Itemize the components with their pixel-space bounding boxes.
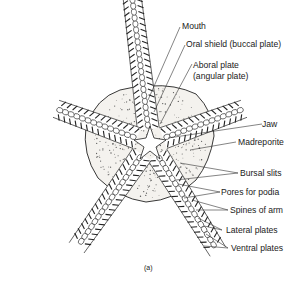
disc-granule bbox=[119, 145, 120, 146]
ventral-plate bbox=[139, 74, 145, 81]
disc-granule bbox=[103, 166, 104, 167]
ventral-plate bbox=[134, 32, 140, 39]
ventral-plate bbox=[133, 26, 139, 33]
disc-granule bbox=[97, 156, 98, 157]
disc-granule bbox=[189, 170, 190, 171]
disc-granule bbox=[184, 164, 185, 165]
disc-granule bbox=[178, 160, 179, 161]
disc-granule bbox=[182, 147, 183, 148]
disc-granule bbox=[120, 145, 121, 146]
disc-granule bbox=[154, 188, 155, 189]
disc-granule bbox=[189, 142, 190, 143]
disc-granule bbox=[186, 144, 187, 145]
disc-granule bbox=[198, 139, 199, 140]
disc-granule bbox=[191, 115, 192, 116]
label-lateral-plates: Lateral plates bbox=[226, 225, 278, 235]
arm-spine bbox=[143, 160, 149, 161]
disc-granule bbox=[158, 97, 159, 98]
disc-granule bbox=[154, 173, 155, 174]
disc-granule bbox=[155, 174, 156, 175]
disc-granule bbox=[100, 141, 101, 142]
disc-granule bbox=[102, 148, 103, 149]
disc-granule bbox=[116, 147, 117, 148]
disc-granule bbox=[132, 102, 133, 103]
arm-spine bbox=[126, 185, 132, 186]
disc-granule bbox=[114, 154, 115, 155]
disc-granule bbox=[200, 150, 201, 151]
disc-granule bbox=[205, 150, 206, 151]
label-jaw: Jaw bbox=[262, 119, 278, 129]
ventral-plate bbox=[130, 3, 136, 10]
brittle-star-diagram: Mouth Oral shield (buccal plate) Aboral … bbox=[0, 0, 306, 286]
disc-granule bbox=[178, 146, 179, 147]
disc-granule bbox=[112, 143, 113, 144]
disc-granule bbox=[176, 159, 177, 160]
disc-granule bbox=[155, 135, 156, 136]
arm-spine bbox=[130, 180, 136, 181]
disc-granule bbox=[159, 195, 160, 196]
disc-granule bbox=[96, 157, 97, 158]
ventral-plate bbox=[142, 98, 148, 105]
disc-granule bbox=[193, 153, 194, 154]
disc-granule bbox=[139, 185, 140, 186]
disc-granule bbox=[148, 187, 149, 188]
disc-granule bbox=[180, 109, 181, 110]
disc-granule bbox=[126, 101, 127, 102]
disc-granule bbox=[147, 189, 148, 190]
ventral-plate bbox=[135, 44, 141, 51]
disc-granule bbox=[150, 179, 151, 180]
disc-granule bbox=[99, 149, 100, 150]
disc-granule bbox=[183, 164, 184, 165]
disc-granule bbox=[127, 109, 128, 110]
disc-granule bbox=[154, 191, 155, 192]
label-spines-of-arm: Spines of arm bbox=[230, 205, 283, 215]
disc-granule bbox=[192, 174, 193, 175]
label-madreporite: Madreporite bbox=[238, 137, 284, 147]
disc-granule bbox=[178, 117, 179, 118]
disc-granule bbox=[161, 149, 162, 150]
arm-spine bbox=[92, 234, 98, 235]
ventral-plate bbox=[136, 50, 142, 57]
disc-granule bbox=[115, 162, 116, 163]
arm-spine bbox=[88, 239, 94, 240]
ventral-plate bbox=[141, 92, 147, 99]
disc-granule bbox=[156, 184, 157, 185]
arm-spine bbox=[119, 195, 125, 196]
disc-granule bbox=[183, 158, 184, 159]
ventral-plate bbox=[132, 20, 138, 27]
disc-granule bbox=[179, 96, 180, 97]
disc-granule bbox=[118, 155, 119, 156]
disc-granule bbox=[123, 94, 124, 95]
disc-granule bbox=[124, 149, 125, 150]
disc-granule bbox=[186, 168, 187, 169]
disc-granule bbox=[182, 153, 183, 154]
disc-granule bbox=[176, 117, 177, 118]
disc-granule bbox=[149, 185, 150, 186]
disc-granule bbox=[162, 90, 163, 91]
arm-spine bbox=[99, 224, 105, 225]
disc-granule bbox=[152, 170, 153, 171]
disc-granule bbox=[158, 88, 159, 89]
disc-granule bbox=[122, 148, 123, 149]
disc-granule bbox=[160, 120, 161, 121]
arm-spine bbox=[95, 229, 101, 230]
disc-granule bbox=[173, 92, 174, 93]
disc-granule bbox=[108, 145, 109, 146]
disc-granule bbox=[120, 148, 121, 149]
disc-granule bbox=[182, 104, 183, 105]
disc-granule bbox=[134, 121, 135, 122]
label-mouth: Mouth bbox=[182, 21, 206, 31]
disc-granule bbox=[178, 101, 179, 102]
disc-granule bbox=[175, 147, 176, 148]
disc-granule bbox=[143, 191, 144, 192]
arm-spine bbox=[123, 190, 129, 191]
disc-granule bbox=[194, 138, 195, 139]
disc-granule bbox=[94, 139, 95, 140]
arm-spine bbox=[85, 244, 91, 245]
disc-granule bbox=[126, 118, 127, 119]
arm-spine bbox=[102, 219, 108, 220]
arm-spine bbox=[106, 214, 112, 215]
ventral-plate bbox=[135, 38, 141, 45]
arm-spine bbox=[133, 175, 139, 176]
arm-spine bbox=[112, 205, 118, 206]
